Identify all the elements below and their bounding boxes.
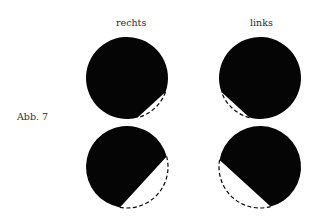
top-right-eye-field: [86, 37, 168, 119]
bottom-right-eye-field: [86, 126, 168, 208]
seen-field-area: [86, 126, 167, 207]
visual-field-diagram: [0, 0, 318, 221]
seen-field-area: [86, 37, 168, 119]
bottom-left-eye-field: [219, 126, 301, 208]
seen-field-area: [220, 126, 301, 207]
top-left-eye-field: [219, 37, 301, 119]
